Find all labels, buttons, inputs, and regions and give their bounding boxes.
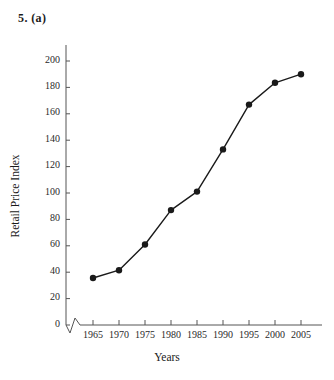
y-tick-label: 100 — [28, 186, 60, 197]
y-tick-label: 0 — [28, 318, 60, 329]
y-tick-label: 120 — [28, 159, 60, 170]
x-axis-ticks — [93, 320, 301, 325]
y-tick-label: 160 — [28, 106, 60, 117]
data-point — [298, 71, 304, 77]
y-tick-label: 200 — [28, 54, 60, 65]
data-point — [168, 207, 174, 213]
data-point — [194, 188, 200, 194]
x-tick-label: 2005 — [284, 329, 318, 340]
y-tick-label: 20 — [28, 291, 60, 302]
y-axis-ticks — [66, 61, 70, 325]
data-point — [116, 267, 122, 273]
y-tick-label: 140 — [28, 133, 60, 144]
data-line-retail-price-index — [93, 74, 301, 278]
data-point — [220, 146, 226, 152]
y-tick-label: 40 — [28, 265, 60, 276]
y-tick-label: 80 — [28, 212, 60, 223]
y-tick-label: 60 — [28, 238, 60, 249]
data-point-markers — [90, 71, 304, 281]
data-point — [246, 101, 252, 107]
y-axis-title: Retail Price Index — [9, 136, 21, 256]
y-tick-label: 180 — [28, 80, 60, 91]
data-point — [90, 275, 96, 281]
data-point — [142, 241, 148, 247]
data-point — [272, 80, 278, 86]
x-axis-title: Years — [0, 351, 334, 363]
figure-panel: 5. (a) — [0, 0, 334, 380]
line-chart: 200 180 160 140 120 100 80 60 40 20 0 19… — [0, 0, 334, 380]
